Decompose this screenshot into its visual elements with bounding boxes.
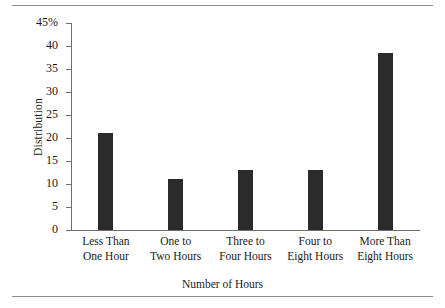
x-tick-label-line1: More Than bbox=[350, 234, 420, 249]
y-tick: 0 bbox=[66, 230, 71, 231]
bottom-divider bbox=[12, 296, 433, 297]
y-tick-label: 0 bbox=[52, 222, 58, 237]
x-tick-label-line2: Eight Hours bbox=[280, 249, 350, 264]
x-tick-label: One toTwo Hours bbox=[141, 234, 211, 264]
y-tick-label: 15 bbox=[46, 153, 58, 168]
bar-chart-figure: Distribution 051015202530354045% Less Th… bbox=[0, 0, 445, 308]
plot-area: 051015202530354045% bbox=[71, 23, 420, 230]
x-axis-title: Number of Hours bbox=[0, 278, 445, 290]
bar bbox=[238, 170, 253, 230]
bar bbox=[378, 53, 393, 230]
x-tick-label-line1: Less Than bbox=[71, 234, 141, 249]
bar bbox=[98, 133, 113, 230]
x-tick-label: Four toEight Hours bbox=[280, 234, 350, 264]
bar bbox=[308, 170, 323, 230]
x-tick-label-line1: Four to bbox=[280, 234, 350, 249]
y-tick-label: 30 bbox=[46, 84, 58, 99]
x-tick-label: Less ThanOne Hour bbox=[71, 234, 141, 264]
x-tick-label-line1: One to bbox=[141, 234, 211, 249]
bar bbox=[168, 179, 183, 230]
y-axis-title: Distribution bbox=[32, 67, 44, 187]
x-tick-label-line2: Two Hours bbox=[141, 249, 211, 264]
x-tick-label-line2: Four Hours bbox=[211, 249, 281, 264]
x-tick-label: More ThanEight Hours bbox=[350, 234, 420, 264]
top-divider bbox=[12, 5, 433, 6]
y-tick-label: 35 bbox=[46, 61, 58, 76]
bar-series bbox=[71, 23, 420, 230]
x-tick-label-line2: One Hour bbox=[71, 249, 141, 264]
y-tick-label: 40 bbox=[46, 38, 58, 53]
x-tick-label-line2: Eight Hours bbox=[350, 249, 420, 264]
x-axis-line bbox=[71, 230, 420, 231]
y-tick-label: 25 bbox=[46, 107, 58, 122]
y-tick-label: 20 bbox=[46, 130, 58, 145]
x-axis-tick-labels: Less ThanOne HourOne toTwo HoursThree to… bbox=[71, 234, 420, 268]
x-tick-label-line1: Three to bbox=[211, 234, 281, 249]
y-tick-label: 10 bbox=[46, 176, 58, 191]
y-tick-label: 5 bbox=[52, 199, 58, 214]
x-tick-label: Three toFour Hours bbox=[211, 234, 281, 264]
y-tick-label: 45% bbox=[36, 15, 58, 30]
